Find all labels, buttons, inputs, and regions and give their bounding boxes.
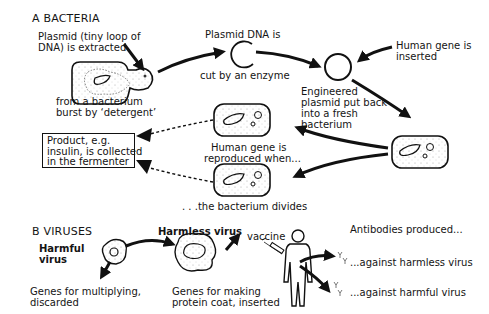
label-plasmid-cut-top: Plasmid DNA is <box>205 29 280 40</box>
label-engineered-plasmid-4: bacterium <box>301 119 352 130</box>
label-human-gene-inserted-2: inserted <box>396 51 437 62</box>
arrow-to-harmless-virus <box>126 240 172 246</box>
arrow-to-daughter-bottom <box>296 154 388 176</box>
dashed-arrow-top <box>150 120 213 134</box>
label-human-gene-reproduced-1: Human gene is <box>211 142 286 153</box>
label-genes-protein-coat-1: Genes for making <box>172 286 261 297</box>
section-b-heading: B VIRUSES <box>32 226 92 237</box>
label-plasmid-extracted-1: Plasmid (tiny loop of <box>38 31 140 42</box>
label-human-gene-inserted-1: Human gene is <box>396 40 471 51</box>
label-engineered-plasmid-3: into a fresh <box>301 108 358 119</box>
antibodies-harmful-icon <box>334 282 342 296</box>
label-antibodies-produced: Antibodies produced... <box>350 224 463 235</box>
label-from-bacterium-1: from a bacterium <box>56 96 143 107</box>
product-label: Product, e.g. insulin, is collected in t… <box>47 136 142 168</box>
label-genes-protein-coat-2: protein coat, inserted <box>172 297 280 308</box>
product-box: Product, e.g. insulin, is collected in t… <box>42 133 135 168</box>
antibodies-harmless-icon <box>338 252 347 264</box>
label-harmless-virus: Harmless virus <box>158 226 242 237</box>
daughter-bacterium-bottom-icon <box>214 164 270 196</box>
label-from-bacterium-2: burst by ‘detergent’ <box>56 107 156 118</box>
section-a-heading: A BACTERIA <box>32 13 100 24</box>
arrow-to-daughter-top <box>298 128 388 148</box>
arrow-to-cut-plasmid <box>158 52 222 72</box>
label-harmful-virus-1: Harmful <box>39 243 84 254</box>
human-figure-icon <box>284 230 312 306</box>
cut-plasmid-icon <box>231 41 253 67</box>
label-engineered-plasmid-2: plasmid put back <box>301 97 387 108</box>
label-genes-multiplying-2: discarded <box>30 297 79 308</box>
label-plasmid-cut-bottom: cut by an enzyme <box>200 70 290 81</box>
harmful-virus-icon <box>102 240 126 265</box>
daughter-bacterium-top-icon <box>214 104 270 136</box>
label-vaccine: vaccine <box>247 231 285 242</box>
dashed-arrow-bottom <box>150 168 213 182</box>
arrow-discard-genes <box>102 262 110 276</box>
engineered-plasmid-icon <box>325 54 351 80</box>
label-engineered-plasmid-1: Engineered <box>301 86 358 97</box>
label-human-gene-reproduced-2: reproduced when... <box>204 153 301 164</box>
harmless-virus-icon <box>175 234 216 271</box>
label-bacterium-divides: . . .the bacterium divides <box>182 201 307 212</box>
arrow-to-plasmid <box>124 44 142 68</box>
label-genes-multiplying-1: Genes for multiplying, <box>30 286 141 297</box>
label-against-harmless: ...against harmless virus <box>350 257 473 268</box>
arrow-to-engineered-plasmid <box>256 52 318 66</box>
label-harmful-virus-2: virus <box>39 254 67 265</box>
arrow-human-gene <box>360 47 392 60</box>
fresh-bacterium-icon <box>392 136 448 168</box>
arrow-to-vaccine <box>226 236 238 250</box>
label-plasmid-extracted-2: DNA) is extracted <box>38 42 126 53</box>
label-against-harmful: ...against harmful virus <box>350 287 466 298</box>
